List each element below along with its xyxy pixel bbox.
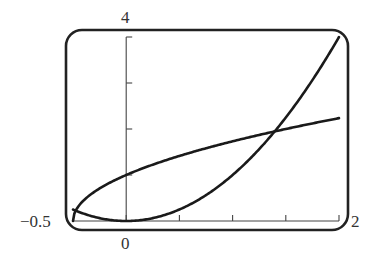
plot-area (0, 0, 375, 265)
x-origin-label: 0 (121, 235, 130, 252)
viewing-window-frame (66, 30, 348, 230)
parabola-curve (73, 37, 339, 221)
axes (73, 37, 339, 221)
y-max-label: 4 (121, 9, 130, 26)
root-curve (73, 118, 339, 221)
x-max-label: 2 (351, 213, 360, 230)
curves (73, 37, 339, 221)
x-min-label: −0.5 (20, 213, 51, 230)
